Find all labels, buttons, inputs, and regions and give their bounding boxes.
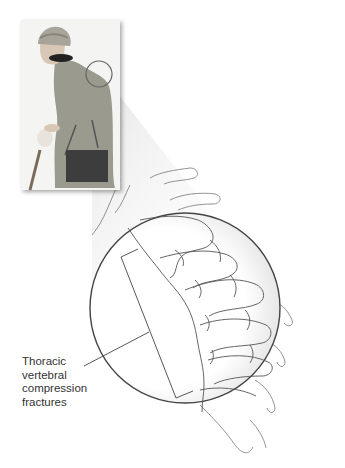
magnifier-circle [90, 213, 280, 403]
label-line-4: fractures [22, 396, 87, 410]
handbag [66, 150, 108, 182]
label-line-2: vertebral [22, 369, 87, 383]
label-line-3: compression [22, 382, 87, 396]
fracture-label: Thoracic vertebral compression fractures [22, 355, 87, 409]
label-line-1: Thoracic [22, 355, 87, 369]
